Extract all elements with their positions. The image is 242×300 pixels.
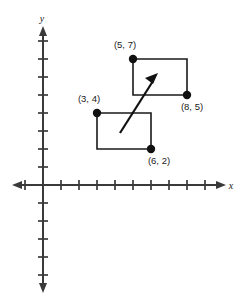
y-axis-group (38, 26, 48, 293)
vertex-dot-5-7 (129, 55, 137, 63)
x-axis-left-arrowhead (12, 181, 22, 189)
x-axis-label: x (228, 180, 234, 191)
translation-vector-arrowhead (145, 73, 158, 84)
coordinate-plot-svg: x y (5, 7) (8, 5) (3, 4) (6, 2) (0, 0, 242, 300)
x-axis-group (12, 180, 226, 190)
vertex-dot-3-4 (93, 109, 101, 117)
y-axis-down-arrowhead (39, 283, 47, 293)
preimage-rectangle (97, 113, 151, 149)
vertex-dot-8-5 (183, 91, 191, 99)
point-label-3-4: (3, 4) (78, 93, 100, 104)
y-axis-up-arrowhead (39, 26, 47, 36)
y-axis-label: y (39, 13, 45, 24)
point-label-8-5: (8, 5) (181, 101, 203, 112)
coordinate-plane-figure: x y (5, 7) (8, 5) (3, 4) (6, 2) (0, 0, 242, 300)
point-label-5-7: (5, 7) (114, 39, 136, 50)
image-rectangle (133, 59, 187, 95)
translation-vector-arrow (120, 73, 158, 133)
translation-vector-shaft (120, 81, 153, 133)
vertex-dot-6-2 (147, 145, 155, 153)
point-label-6-2: (6, 2) (148, 155, 170, 166)
x-axis-right-arrowhead (216, 181, 226, 189)
